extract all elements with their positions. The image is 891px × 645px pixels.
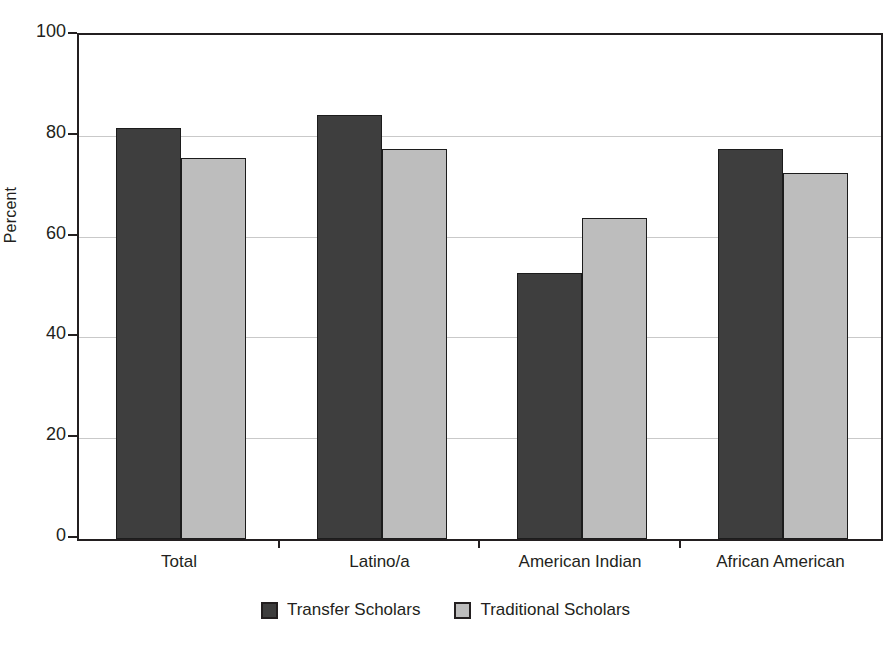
legend-label: Transfer Scholars	[287, 600, 421, 620]
y-tick-0	[68, 536, 77, 538]
plot-area	[77, 33, 883, 541]
x-axis-label-latino-a: Latino/a	[280, 552, 480, 572]
bar-latino-a-traditional-scholars	[382, 149, 447, 539]
bar-african-american-traditional-scholars	[783, 173, 848, 539]
y-tick-label-20: 20	[14, 425, 66, 443]
x-axis-label-african-american: African American	[681, 552, 881, 572]
y-tick-label-80: 80	[14, 123, 66, 141]
legend-item-transfer-scholars[interactable]: Transfer Scholars	[261, 600, 421, 620]
y-tick-label-40: 40	[14, 324, 66, 342]
legend-swatch-icon	[454, 602, 471, 619]
legend-label: Traditional Scholars	[480, 600, 630, 620]
y-tick-60	[68, 234, 77, 236]
y-tick-20	[68, 435, 77, 437]
y-tick-100	[68, 32, 77, 34]
bar-american-indian-traditional-scholars	[582, 218, 647, 539]
y-tick-40	[68, 334, 77, 336]
y-tick-label-100: 100	[14, 22, 66, 40]
legend-item-traditional-scholars[interactable]: Traditional Scholars	[454, 600, 630, 620]
chart-legend: Transfer ScholarsTraditional Scholars	[0, 600, 891, 620]
y-axis-title: Percent	[2, 140, 20, 290]
bar-total-traditional-scholars	[181, 158, 246, 539]
bar-latino-a-transfer-scholars	[317, 115, 382, 539]
y-tick-80	[68, 133, 77, 135]
legend-swatch-icon	[261, 602, 278, 619]
x-tick-3	[679, 539, 681, 548]
x-axis-label-american-indian: American Indian	[480, 552, 680, 572]
bar-american-indian-transfer-scholars	[517, 273, 582, 539]
y-tick-label-60: 60	[14, 224, 66, 242]
gridline-80	[79, 136, 881, 137]
y-tick-label-0: 0	[14, 526, 66, 544]
bar-chart: Percent 020406080100 TotalLatino/aAmeric…	[0, 0, 891, 645]
bar-african-american-transfer-scholars	[718, 149, 783, 539]
x-tick-1	[278, 539, 280, 548]
x-tick-2	[478, 539, 480, 548]
x-axis-label-total: Total	[79, 552, 279, 572]
bar-total-transfer-scholars	[116, 128, 181, 539]
